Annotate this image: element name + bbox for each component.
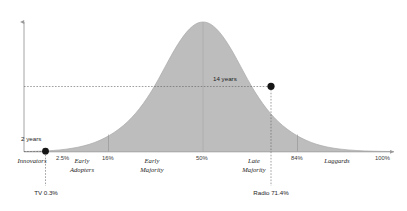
segment-label-laggards-line1: Laggards [324, 157, 349, 164]
annotation-tv-years: 2 years [21, 136, 41, 142]
segment-label-early-adopters: Early Adopters [61, 158, 103, 174]
callout-radio: Radio 71.4% [249, 190, 293, 196]
chart-canvas [0, 0, 407, 211]
segment-label-late-majority: Late Majority [232, 158, 276, 174]
segment-label-early-majority-line1: Early [145, 157, 160, 164]
callout-tv: TV 0.3% [31, 190, 61, 196]
data-point-marker-radio[interactable] [267, 83, 274, 90]
segment-label-early-majority: Early Majority [128, 158, 176, 174]
segment-label-early-majority-line2: Majority [128, 167, 176, 174]
annotation-radio-years: 14 years [213, 76, 237, 82]
segment-label-innovators-line1: Innovators [17, 157, 46, 164]
data-point-marker-tv[interactable] [42, 148, 49, 155]
x-tick-label-84-pct: 84% [291, 156, 303, 162]
x-tick-label-100-pct: 100% [375, 156, 390, 162]
segment-label-early-adopters-line2: Adopters [61, 167, 103, 174]
diffusion-of-innovations-chart: 2 years 14 years TV 0.3% Radio 71.4% 2.5… [0, 0, 407, 211]
segment-label-late-majority-line2: Majority [232, 167, 276, 174]
x-tick-label-50-pct: 50% [196, 156, 208, 162]
segment-label-laggards: Laggards [313, 158, 361, 165]
segment-label-innovators: Innovators [8, 158, 56, 165]
bell-curve-area [24, 22, 392, 152]
x-tick-label-16-pct: 16% [102, 156, 114, 162]
segment-label-early-adopters-line1: Early [75, 157, 90, 164]
segment-label-late-majority-line1: Late [248, 157, 260, 164]
